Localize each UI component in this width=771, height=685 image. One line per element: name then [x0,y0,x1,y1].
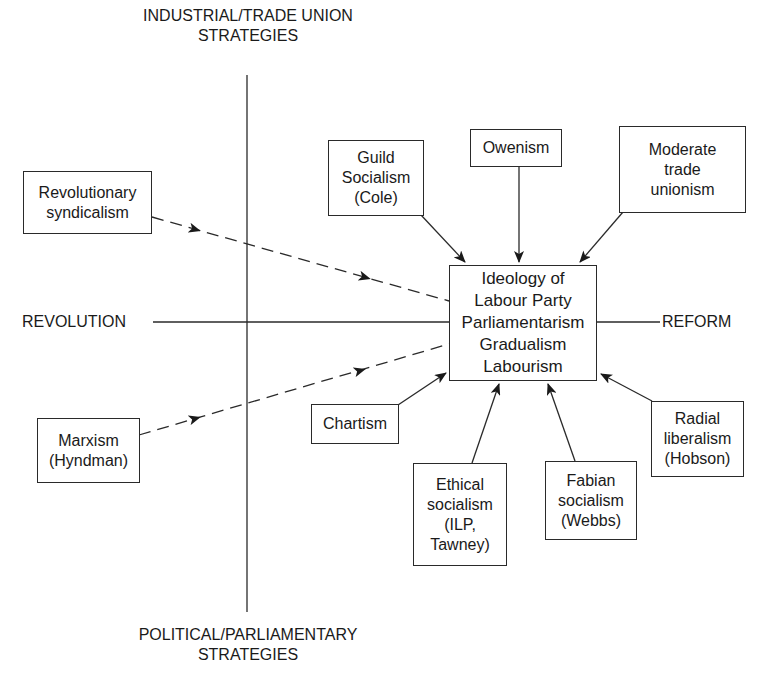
axis-label-top-line1: INDUSTRIAL/TRADE UNION [143,7,353,24]
connector-lines [0,0,771,685]
node-guild-socialism: Guild Socialism (Cole) [328,140,424,216]
node-chartism: Chartism [311,404,399,444]
node-text: trade [664,160,700,180]
axis-label-right: REFORM [660,312,731,332]
center-line: Gradualism [480,334,567,356]
node-text: socialism [427,495,493,515]
node-fabian-socialism: Fabian socialism (Webbs) [545,461,637,540]
node-text: Tawney) [430,535,490,555]
node-text: Ethical [436,475,484,495]
center-line: Parliamentarism [462,312,585,334]
node-radial-liberalism: Radial liberalism (Hobson) [651,401,744,477]
center-line: Labourism [483,356,562,378]
node-text: (Webbs) [561,511,621,531]
node-text: Fabian [567,471,616,491]
node-text: Marxism [58,431,118,451]
node-owenism: Owenism [470,129,562,167]
node-text: socialism [558,491,624,511]
axis-label-bottom-line2: STRATEGIES [198,646,298,663]
axis-label-top: INDUSTRIAL/TRADE UNION STRATEGIES [118,6,378,46]
node-text: Guild [357,148,394,168]
node-text: Chartism [323,414,387,434]
node-text: Moderate [649,140,717,160]
node-text: Socialism [342,168,410,188]
node-moderate-trade-unionism: Moderate trade unionism [619,126,746,213]
center-line: Ideology of [481,268,564,290]
axis-label-bottom: POLITICAL/PARLIAMENTARY STRATEGIES [118,625,378,665]
node-marxism: Marxism (Hyndman) [37,418,140,483]
axis-label-bottom-line1: POLITICAL/PARLIAMENTARY [139,626,358,643]
node-text: Radial [675,409,720,429]
node-text: (Cole) [354,188,398,208]
axis-label-top-line2: STRATEGIES [198,27,298,44]
node-text: Owenism [483,138,550,158]
node-text: unionism [650,180,714,200]
node-text: (ILP, [444,515,476,535]
node-ethical-socialism: Ethical socialism (ILP, Tawney) [413,463,507,566]
node-revolutionary-syndicalism: Revolutionary syndicalism [23,171,152,234]
node-text: (Hobson) [665,449,731,469]
center-node-labour-ideology: Ideology of Labour Party Parliamentarism… [449,265,597,381]
node-text: liberalism [664,429,732,449]
node-text: syndicalism [46,203,129,223]
node-text: Revolutionary [39,183,137,203]
center-line: Labour Party [474,290,571,312]
node-text: (Hyndman) [49,451,128,471]
axis-label-left: REVOLUTION [22,312,126,332]
